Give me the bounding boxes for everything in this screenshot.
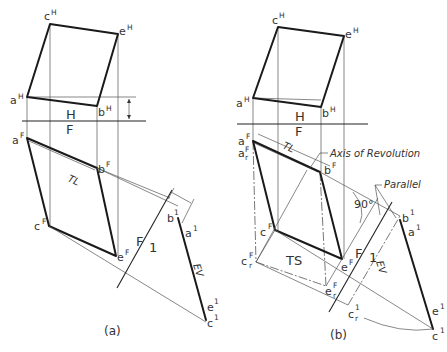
caption-a: (a) — [104, 324, 121, 338]
dimension-arrow-up-icon — [127, 99, 131, 103]
label-bF: b — [324, 164, 331, 177]
label-a1: a — [408, 226, 415, 239]
label-cH-sup: H — [279, 11, 285, 20]
label-eF: e — [117, 251, 124, 264]
label-e1: e — [432, 305, 439, 318]
dimension-arrow-down-icon — [127, 115, 131, 119]
label-c1r-sub: r — [355, 314, 359, 323]
label-a1: a — [185, 227, 192, 240]
label-e1: e — [207, 301, 214, 314]
panel-b-labels: c H e H a H b H H F a F a F r TL Axis of… — [236, 11, 445, 343]
label-aH: a — [236, 97, 243, 110]
aux-dim-line — [171, 192, 191, 203]
label-cF: c — [34, 220, 40, 233]
fold-label-f: F — [295, 124, 302, 139]
label-bF-sup: F — [332, 161, 336, 170]
label-c1r-sup: 1 — [355, 303, 360, 312]
plane-frontal-view — [253, 141, 342, 259]
fold-label-h: H — [295, 109, 305, 124]
true-length-line — [29, 141, 95, 170]
plane-horizontal-view — [27, 24, 118, 106]
label-b1-sup: 1 — [174, 208, 179, 217]
fold-label-1-aux: 1 — [149, 240, 157, 255]
label-axis-of-revolution: Axis of Revolution — [329, 148, 420, 159]
revolved-edge-ac — [253, 141, 256, 262]
revolution-arc — [364, 318, 433, 330]
panel-a — [22, 24, 206, 322]
label-eF: e — [341, 261, 348, 274]
label-eH-sup: H — [127, 23, 133, 32]
label-a1-sup: 1 — [416, 223, 421, 232]
label-b1-sup: 1 — [410, 208, 415, 217]
label-eF-sup: F — [349, 258, 353, 267]
label-ev: EV — [374, 259, 389, 276]
label-eF-sup: F — [125, 248, 129, 257]
label-aH: a — [10, 94, 17, 107]
label-bH-sup: H — [106, 104, 112, 113]
edge-view-line — [400, 220, 433, 329]
label-bH-sup: H — [330, 105, 336, 114]
label-eH-sup: H — [353, 26, 359, 35]
fold-label-f: F — [66, 122, 73, 137]
label-arF: a — [238, 147, 245, 160]
label-c1r: c — [348, 308, 354, 321]
label-c1-sup: 1 — [440, 326, 445, 335]
label-cH: c — [44, 10, 50, 23]
label-bF-sup: F — [106, 160, 110, 169]
label-a1-sup: 1 — [193, 224, 198, 233]
label-cF: c — [260, 226, 266, 239]
label-cH: c — [272, 14, 278, 27]
label-bH: b — [98, 106, 105, 119]
label-cF-sup: F — [42, 217, 46, 226]
label-c1-sup: 1 — [214, 313, 219, 322]
label-crF-sup: F — [249, 251, 253, 260]
projector-b2 — [97, 168, 170, 198]
label-eH: e — [119, 25, 126, 38]
aux-dim-ext2 — [182, 199, 194, 223]
label-c1: c — [432, 330, 438, 343]
label-parallel: Parallel — [384, 179, 421, 190]
label-aF-sup: F — [20, 131, 24, 140]
label-tl: TL — [281, 140, 296, 155]
caption-b: (b) — [330, 328, 347, 342]
label-c1: c — [207, 317, 213, 330]
label-angle-90: 90° — [354, 198, 374, 211]
label-aF: a — [12, 134, 19, 147]
plane-horizontal-view — [253, 27, 344, 107]
fold-line-f1 — [117, 190, 172, 288]
fold-label-f-aux: F — [136, 234, 143, 249]
label-aH-sup: H — [244, 95, 250, 104]
parallel-leader-1 — [375, 185, 382, 215]
label-bH: b — [322, 107, 329, 120]
label-eH: e — [345, 28, 352, 41]
label-ts: TS — [285, 253, 302, 268]
label-aF-sup: F — [246, 132, 250, 141]
panel-a-labels: c H e H a H b H H F a F b F TL c F e F F… — [10, 8, 219, 338]
label-e1-sup: 1 — [214, 297, 219, 306]
label-aH-sup: H — [18, 92, 24, 101]
projector-c-to-aux — [49, 226, 206, 322]
plane-frontal-view — [27, 138, 116, 256]
fold-label-h: H — [66, 107, 76, 122]
label-tl: TL — [66, 173, 81, 188]
label-crF: c — [241, 255, 247, 268]
label-cF-sup: F — [268, 222, 272, 231]
label-e1-sup: 1 — [440, 302, 445, 311]
label-arF-sub: r — [245, 153, 249, 162]
label-crF-sub: r — [249, 261, 253, 270]
label-erF-sup: F — [333, 281, 337, 290]
label-cH-sup: H — [51, 8, 57, 17]
label-b1: b — [167, 212, 174, 225]
fold-label-f-aux: F — [355, 246, 362, 261]
descriptive-geometry-figure: c H e H a H b H H F a F b F TL c F e F F… — [0, 0, 447, 352]
label-bF: b — [98, 163, 105, 176]
label-erF: e — [325, 285, 332, 298]
label-b1: b — [402, 212, 409, 225]
